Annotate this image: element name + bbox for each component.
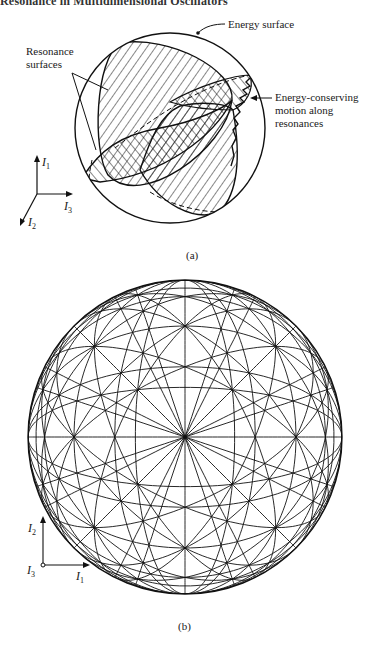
figure-canvas: Energy surface Resonance surfaces Energy…: [0, 0, 368, 646]
label-resonance-surfaces-1: Resonance: [26, 45, 74, 57]
resonance-web: [28, 280, 342, 594]
figure-b: I2 I1 I3 (b): [26, 280, 342, 633]
axis-a-right: I3: [63, 199, 72, 215]
caption-b: (b): [178, 620, 191, 633]
label-energy-surface: Energy surface: [228, 18, 294, 30]
axis-b-right: I1: [75, 569, 84, 585]
figure-a: Energy surface Resonance surfaces Energy…: [20, 18, 359, 262]
axis-b-up: I2: [27, 521, 36, 537]
axis-a-diag: I2: [27, 215, 36, 231]
label-resonance-surfaces-2: surfaces: [26, 58, 62, 70]
label-energy-conserving-3: resonances: [275, 117, 323, 129]
axes-a: I1 I3 I2: [20, 155, 73, 231]
axis-a-up: I1: [41, 155, 50, 171]
label-energy-conserving-1: Energy-conserving: [275, 91, 359, 103]
axis-b-origin: I3: [26, 563, 35, 579]
caption-a: (a): [186, 249, 199, 262]
axes-b: I2 I1 I3: [26, 516, 90, 585]
label-energy-conserving-2: motion along: [275, 104, 334, 116]
